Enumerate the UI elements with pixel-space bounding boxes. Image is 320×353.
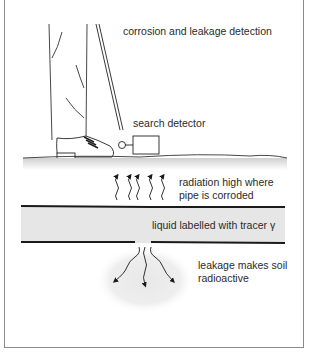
detector-pole-icon	[96, 24, 123, 130]
shoe-icon	[57, 136, 114, 159]
label-search-detector: search detector	[133, 117, 205, 130]
trousers-icon	[49, 24, 87, 140]
label-liquid-tracer: liquid labelled with tracer γ	[152, 219, 275, 232]
label-leakage-line2: radioactive	[198, 272, 249, 285]
search-detector-icon	[119, 136, 160, 154]
radioactive-soil-cloud	[95, 246, 195, 314]
diagram-title: corrosion and leakage detection	[123, 25, 272, 38]
label-radiation-line1: radiation high where	[179, 176, 274, 189]
label-leakage-line1: leakage makes soil	[198, 259, 287, 272]
label-radiation-line2: pipe is corroded	[179, 189, 254, 202]
radiation-arrows-icon	[116, 176, 165, 200]
